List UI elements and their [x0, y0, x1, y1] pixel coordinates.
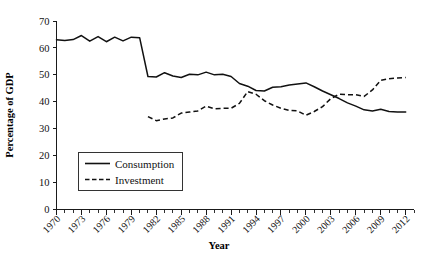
y-tick-label: 10 — [39, 177, 50, 188]
legend-label-consumption: Consumption — [115, 158, 175, 170]
x-axis-minor-ticks — [57, 210, 415, 214]
legend-label-investment: Investment — [115, 174, 164, 186]
x-axis: 1970197319761979198219851988199119941997… — [40, 210, 414, 236]
x-tick-label: 1970 — [40, 213, 62, 235]
x-tick-label: 1985 — [165, 213, 187, 235]
y-axis-ticks — [53, 21, 57, 210]
chart-container: 010203040506070 197019731976197919821985… — [0, 0, 428, 263]
x-tick-label: 2003 — [315, 213, 337, 235]
x-tick-label: 2012 — [390, 213, 412, 235]
y-axis-tick-labels: 010203040506070 — [39, 16, 50, 216]
x-axis-tick-labels: 1970197319761979198219851988199119941997… — [40, 213, 411, 235]
x-tick-label: 2006 — [340, 213, 362, 235]
x-tick-label: 1979 — [115, 213, 137, 235]
data-series-group — [57, 36, 406, 121]
y-tick-label: 50 — [39, 69, 50, 80]
y-tick-label: 20 — [39, 150, 50, 161]
series-line-investment — [148, 78, 406, 121]
x-tick-label: 1991 — [215, 213, 237, 235]
x-tick-label: 1976 — [90, 213, 112, 235]
y-axis-title: Percentage of GDP — [4, 72, 15, 158]
y-tick-label: 60 — [39, 43, 50, 54]
y-tick-label: 0 — [44, 204, 49, 215]
x-axis-title: Year — [209, 240, 230, 251]
x-tick-label: 1982 — [140, 213, 162, 235]
x-tick-label: 1997 — [265, 213, 287, 235]
y-tick-label: 70 — [39, 16, 50, 27]
x-tick-label: 1988 — [190, 213, 212, 235]
line-chart: 010203040506070 197019731976197919821985… — [0, 0, 428, 263]
x-tick-label: 1973 — [65, 213, 87, 235]
x-tick-label: 1994 — [240, 213, 262, 235]
y-axis: 010203040506070 — [39, 16, 57, 216]
chart-legend: Consumption Investment — [79, 153, 183, 191]
x-tick-label: 2000 — [290, 213, 312, 235]
series-line-consumption — [57, 36, 406, 112]
x-tick-label: 2009 — [365, 213, 387, 235]
y-tick-label: 40 — [39, 96, 50, 107]
y-tick-label: 30 — [39, 123, 50, 134]
